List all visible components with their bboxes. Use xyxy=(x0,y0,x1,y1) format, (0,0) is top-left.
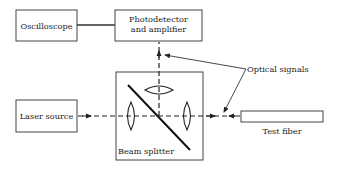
optical-signal-leader-top xyxy=(165,55,246,69)
optical-signals-label: Optical signals xyxy=(247,64,309,74)
optical-signal-leader-bottom xyxy=(224,69,246,112)
photodetector-label-line2: and amplifier xyxy=(115,24,202,34)
test-fiber-label: Test fiber xyxy=(241,126,323,136)
photodetector-label-line1: Photodetector xyxy=(115,14,202,24)
oscilloscope-label: Oscilloscope xyxy=(16,10,77,41)
laser-source-label: Laser source xyxy=(16,100,77,132)
beam-splitter-mirror xyxy=(128,85,190,150)
test-fiber-box xyxy=(241,111,323,122)
photodetector-label: Photodetector and amplifier xyxy=(115,14,202,34)
beam-splitter-label: Beam splitter xyxy=(116,146,176,156)
